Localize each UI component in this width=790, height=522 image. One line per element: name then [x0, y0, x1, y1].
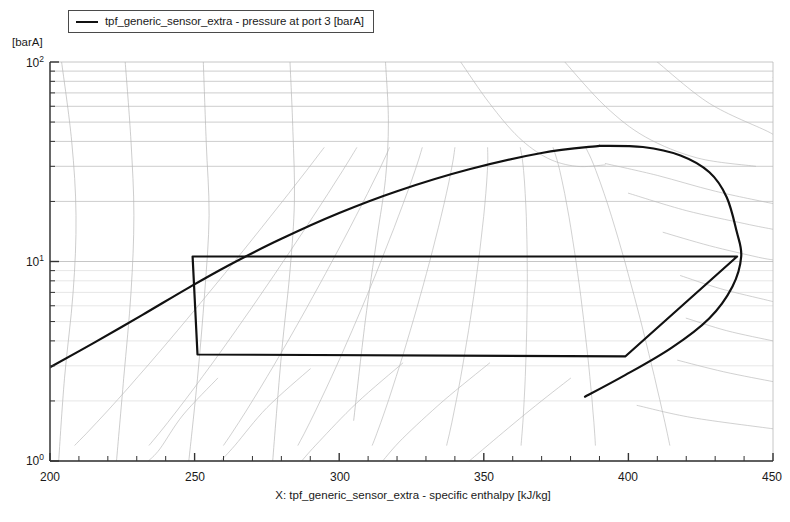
isotherm-superheat — [678, 360, 773, 381]
saturation-dome-vapour-branch — [585, 146, 741, 397]
plot-canvas — [0, 0, 790, 522]
chart-root: tpf_generic_sensor_extra - pressure at p… — [0, 0, 790, 522]
cycle-path-series — [193, 257, 738, 357]
isotherm-wet — [148, 378, 217, 461]
isotherm-wet — [221, 369, 311, 461]
isotherm-superheat — [461, 62, 606, 167]
isotherm-superheat — [657, 62, 773, 135]
plot-inner — [50, 62, 788, 461]
isotherm-wet — [383, 363, 490, 461]
isotherm-superheat — [773, 64, 788, 77]
isotherm-wet — [469, 378, 570, 461]
isotherm-liquid — [354, 62, 389, 420]
isotherm-wet — [302, 363, 403, 461]
isotherm-superheat — [628, 193, 773, 229]
isotherm-superheat — [605, 164, 773, 204]
isotherm-superheat — [637, 405, 773, 428]
